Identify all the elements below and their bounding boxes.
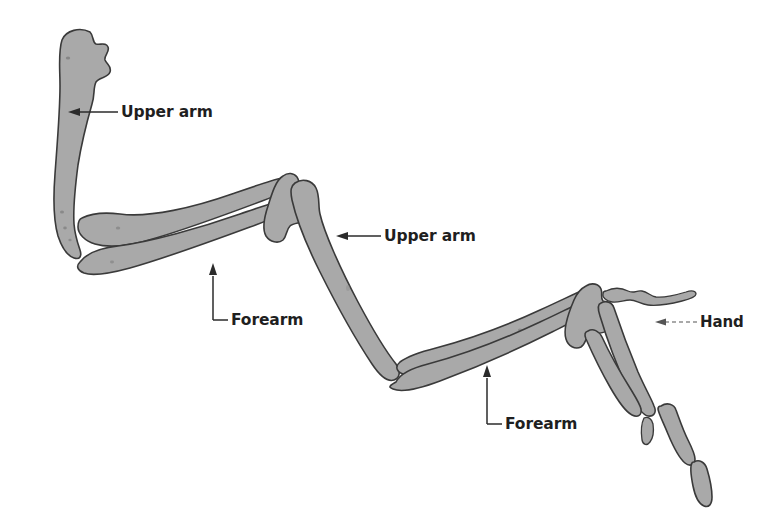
label-hand: Hand [700,313,744,331]
bone-phalanx-distal [691,461,712,507]
bone-humerus-right [291,180,399,380]
leader-hand [655,319,697,326]
bone-ulna-right [390,300,596,391]
label-upper-arm-right: Upper arm [384,227,476,245]
label-forearm-right: Forearm [505,415,577,433]
label-forearm-left: Forearm [231,311,303,329]
bone-phalanx-middle [658,404,695,465]
leader-upper-arm-right [336,232,381,240]
leader-forearm-left [209,263,228,320]
leader-forearm-right [483,365,502,424]
bone-digit-thin-upper [603,288,696,305]
anatomical-figure: Upper arm Forearm Upper arm Forearm Hand [0,0,763,522]
skeleton-drawing [0,0,763,522]
label-upper-arm-left: Upper arm [121,103,213,121]
bone-sesamoid [641,417,653,444]
